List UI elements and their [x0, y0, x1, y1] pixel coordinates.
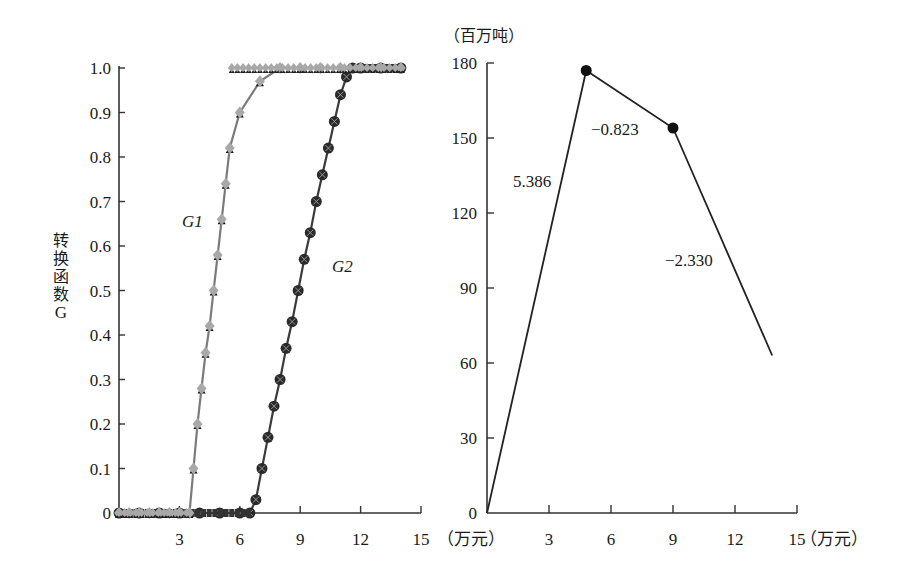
g2-label: G2 [332, 257, 353, 276]
g2-series [114, 63, 407, 519]
g1-label: G1 [182, 212, 203, 231]
y-tick-label: 0.1 [90, 460, 111, 479]
right-y-unit: （百万吨） [444, 26, 524, 45]
right-panel: 0306090120150180 3691215 （百万吨） （万元） 5.38… [444, 26, 868, 549]
y-label-char: 换 [53, 249, 69, 268]
circle-marker [246, 509, 251, 517]
circle-marker [195, 509, 200, 517]
circle-marker [212, 509, 217, 517]
x-tick-label: 12 [727, 530, 744, 549]
y-tick-label: 0.4 [90, 326, 112, 345]
y-tick-label: 90 [460, 279, 477, 298]
y-tick-label: 0.5 [90, 282, 111, 301]
left-y-label: 转换函数G [53, 231, 69, 322]
y-label-char: G [55, 303, 67, 322]
threshold-point [668, 123, 679, 134]
g1-series [114, 62, 406, 519]
y-tick-label: 1.0 [90, 59, 111, 78]
circle-marker [241, 509, 246, 517]
x-tick-label: 15 [413, 530, 430, 549]
threshold-point [581, 65, 592, 76]
x-tick-label: 3 [545, 530, 554, 549]
y-tick-label: 0.8 [90, 148, 111, 167]
circle-marker [229, 509, 234, 517]
x-tick-label: 6 [236, 530, 245, 549]
left-series [114, 62, 407, 519]
y-tick-label: 0 [469, 504, 478, 523]
right-x-unit: （万元） [800, 530, 868, 549]
circle-marker [218, 509, 223, 517]
y-tick-label: 0.3 [90, 371, 111, 390]
y-tick-label: 0.2 [90, 415, 111, 434]
y-tick-label: 0.7 [90, 193, 112, 212]
y-tick-label: 150 [452, 129, 478, 148]
left-panel: 00.10.20.30.40.50.60.70.80.91.0 3691215 … [53, 59, 505, 549]
y-tick-label: 60 [460, 354, 477, 373]
x-tick-label: 12 [352, 530, 369, 549]
slope-label-1: 5.386 [513, 172, 551, 191]
left-x-unit: （万元） [437, 530, 505, 549]
x-tick-label: 6 [607, 530, 616, 549]
figure: 00.10.20.30.40.50.60.70.80.91.0 3691215 … [0, 0, 924, 588]
slope-label-3: −2.330 [665, 251, 713, 270]
y-tick-label: 0 [103, 504, 112, 523]
x-tick-label: 9 [669, 530, 678, 549]
y-label-char: 转 [53, 231, 69, 250]
y-tick-label: 180 [452, 54, 478, 73]
circle-marker [201, 509, 206, 517]
y-tick-label: 120 [452, 204, 478, 223]
circle-marker [207, 509, 212, 517]
y-tick-label: 0.9 [90, 104, 111, 123]
y-label-char: 函 [53, 267, 69, 286]
circle-marker [224, 509, 229, 517]
right-x-ticks: 3691215 [545, 505, 806, 549]
circle-marker [235, 509, 240, 517]
x-tick-label: 9 [296, 530, 305, 549]
y-tick-label: 0.6 [90, 237, 111, 256]
x-tick-label: 3 [175, 530, 184, 549]
y-tick-label: 30 [460, 429, 477, 448]
slope-label-2: −0.823 [591, 120, 639, 139]
y-label-char: 数 [53, 285, 69, 304]
